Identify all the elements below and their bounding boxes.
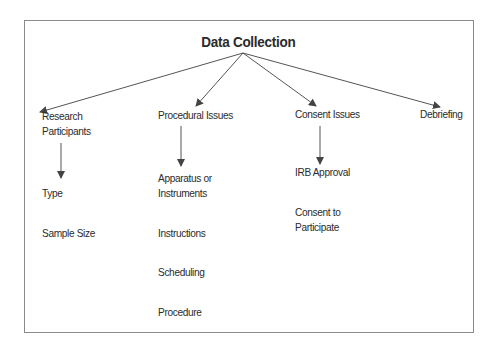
diagram-title: Data Collection	[0, 33, 496, 50]
label-line: Sample Size	[42, 226, 95, 241]
node-apparatus-or-instruments: Apparatus or Instruments	[158, 171, 212, 201]
node-irb-approval: IRB Approval	[295, 165, 350, 180]
arrow-to-debriefing	[243, 53, 440, 107]
arrow-to-procedural-issues	[196, 53, 243, 106]
label-line: Type	[42, 186, 63, 201]
arrow-to-research-participants	[40, 53, 243, 112]
title-text: Data Collection	[201, 33, 295, 50]
node-instructions: Instructions	[158, 226, 206, 241]
label-line: Participate	[295, 220, 340, 235]
node-consent-to-participate: Consent to Participate	[295, 205, 340, 235]
node-procedure: Procedure	[158, 305, 202, 320]
label-line: Apparatus or	[158, 171, 212, 186]
label-line: Procedure	[158, 305, 202, 320]
connector-arrows	[0, 0, 496, 352]
label-line: Consent Issues	[295, 107, 360, 122]
label-line: Participants	[42, 124, 91, 139]
label-line: Scheduling	[158, 265, 205, 280]
node-scheduling: Scheduling	[158, 265, 205, 280]
label-line: Debriefing	[420, 107, 463, 122]
label-line: Consent to	[295, 205, 340, 220]
label-line: Research	[42, 109, 91, 124]
node-consent-issues: Consent Issues	[295, 107, 360, 122]
label-line: Instruments	[158, 186, 212, 201]
arrow-to-consent-issues	[243, 53, 316, 106]
node-debriefing: Debriefing	[420, 107, 463, 122]
label-line: Procedural Issues	[158, 108, 233, 123]
label-line: IRB Approval	[295, 165, 350, 180]
label-line: Instructions	[158, 226, 206, 241]
node-sample-size: Sample Size	[42, 226, 95, 241]
node-procedural-issues: Procedural Issues	[158, 108, 233, 123]
node-research-participants: Research Participants	[42, 109, 91, 139]
node-type: Type	[42, 186, 63, 201]
